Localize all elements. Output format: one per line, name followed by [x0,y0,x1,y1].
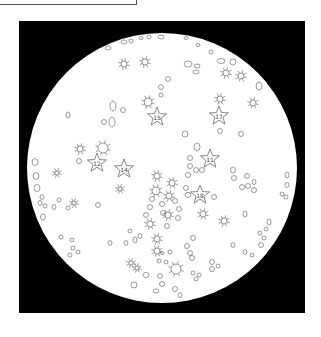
star-label: 18 [196,192,204,199]
white-dish-circle [27,33,297,303]
star-label: 12 [93,160,101,167]
star-label: 14 [120,166,128,173]
star-label: 11 [206,156,214,163]
petri-plate-illustration: 151712141118 [0,0,321,337]
star-label: 17 [215,113,223,120]
star-label: 15 [153,114,161,121]
